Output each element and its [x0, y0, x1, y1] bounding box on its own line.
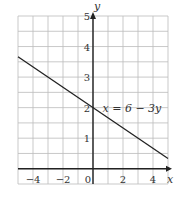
line-equation-label: x = 6 − 3y — [103, 102, 163, 115]
y-tick-label: 3 — [84, 72, 90, 83]
x-tick-label: −2 — [56, 174, 71, 185]
y-tick-label: 5 — [84, 11, 90, 22]
line-chart: −4−202412345xyx = 6 − 3y — [0, 0, 174, 212]
x-axis-label: x — [167, 173, 174, 186]
x-axis-arrow — [166, 166, 172, 172]
y-tick-label: 4 — [84, 42, 90, 53]
x-tick-label: 2 — [120, 174, 126, 185]
y-tick-label: 2 — [84, 103, 90, 114]
x-tick-label: −4 — [26, 174, 41, 185]
axes — [18, 12, 172, 184]
x-tick-label: 0 — [85, 174, 91, 185]
x-tick-label: 4 — [150, 174, 156, 185]
y-axis-label: y — [93, 0, 101, 13]
y-tick-label: 1 — [84, 133, 90, 144]
y-axis-arrow — [90, 12, 96, 19]
